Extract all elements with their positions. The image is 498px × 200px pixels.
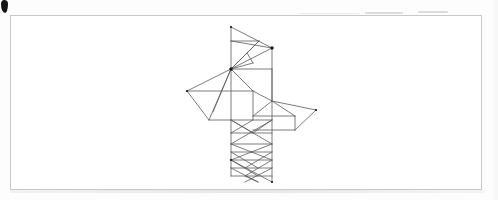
scan-streak-artifact [365, 12, 403, 14]
scan-streak-artifact [300, 13, 360, 14]
page-right-shade [489, 0, 498, 200]
scan-streak-artifact [418, 11, 448, 13]
figure-border [10, 15, 482, 190]
page-canvas [0, 0, 498, 200]
page-edge-shadow [10, 190, 485, 193]
ink-blot-artifact [1, 0, 8, 13]
